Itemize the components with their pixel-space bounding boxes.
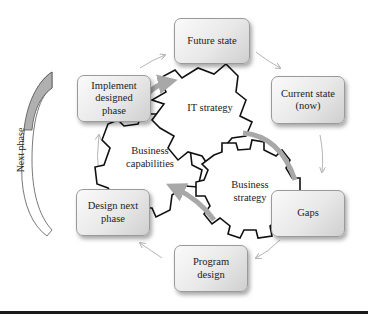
step-implement-designed-phase: Implement designed phase: [77, 75, 151, 122]
step-current-state: Current state (now): [271, 76, 345, 124]
diagram-canvas: IT strategy Business capabilities Busine…: [0, 0, 368, 316]
step-future-state: Future state: [174, 18, 250, 64]
step-program-design: Program design: [174, 245, 248, 292]
step-design-next-phase: Design next phase: [76, 189, 150, 236]
gear-label-business-strategy: Business strategy: [210, 178, 290, 204]
next-phase-label: Next phase: [15, 128, 26, 173]
bottom-rule: [0, 311, 368, 314]
gear-label-business-capabilities: Business capabilities: [110, 144, 190, 170]
next-phase-arrow: [22, 72, 52, 236]
gear-label-it-strategy: IT strategy: [170, 101, 250, 114]
